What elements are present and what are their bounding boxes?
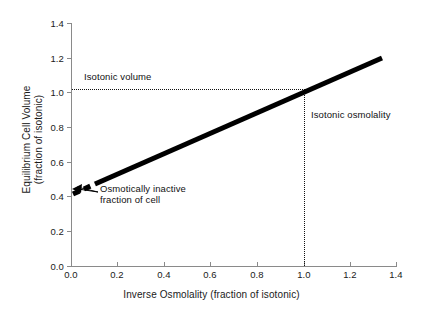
- chart-figure: 1.4 1.2 1.0 0.8 0.6 0.4 0.2 0.0 0.0 0.2 …: [0, 0, 423, 311]
- data-series-layer: [0, 0, 423, 311]
- annotation-line-1: Osmotically inactive: [100, 183, 186, 194]
- y-axis-title: Equilibrium Cell Volume (fraction of iso…: [21, 40, 44, 240]
- annotation-line-2: fraction of cell: [100, 194, 186, 205]
- y-axis-title-line-1: Equilibrium Cell Volume: [21, 40, 33, 240]
- annotation-isotonic-osmolality: Isotonic osmolality: [311, 109, 391, 120]
- x-axis-title: Inverse Osmolality (fraction of isotonic…: [0, 289, 423, 300]
- annotation-osmotically-inactive-fraction: Osmotically inactive fraction of cell: [100, 183, 186, 205]
- annotation-isotonic-volume: Isotonic volume: [84, 71, 152, 82]
- y-axis-title-line-2: (fraction of isotonic): [32, 40, 44, 240]
